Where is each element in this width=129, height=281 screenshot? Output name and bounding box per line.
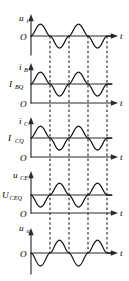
panel-iB-ylabel-sub: B [24, 66, 28, 73]
panel-iB-plot: i B I BQ O t [0, 58, 129, 110]
panel-uo-origin-label: O [20, 249, 27, 259]
panel-uo-plot: u o O t [0, 221, 129, 277]
panel-ui-ylabel-sub: i [27, 17, 29, 24]
panel-uCE-ylabel-main: u [13, 170, 18, 180]
panel-iC-plot: i C I CQ O t [0, 112, 129, 164]
panel-uCE-tlabel: t [120, 208, 123, 218]
panel-iB-origin-label: O [20, 99, 27, 109]
panel-uCE: u CE U CEQ O t [0, 166, 129, 220]
panel-uo-ylabel-main: u [19, 223, 24, 233]
panel-iC-ylabel-main: i [19, 116, 22, 126]
panel-ui-plot: u i O t [0, 8, 129, 56]
y-axis-arrow-icon [28, 63, 33, 70]
panel-iB: i B I BQ O t [0, 58, 129, 110]
panel-uCE-origin-label: O [20, 209, 27, 219]
panel-uo-ylabel-sub: o [27, 227, 30, 234]
panel-iB-qlabel-sub: BQ [15, 83, 24, 90]
panel-ui-tlabel: t [120, 31, 123, 41]
waveform-figure: u i O t i B I BQ O t [0, 0, 129, 281]
panel-ui-ylabel-main: u [19, 13, 24, 23]
panel-uo: u o O t [0, 221, 129, 277]
panel-iC-qlabel-main: I [7, 133, 12, 143]
x-axis-arrow-icon [111, 210, 118, 215]
panel-iC-ylabel-sub: C [24, 120, 29, 127]
panel-iC-tlabel: t [120, 152, 123, 162]
panel-ui-origin-label: O [20, 32, 27, 42]
y-axis-arrow-icon [28, 171, 33, 178]
panel-uCE-qlabel-sub: CEQ [10, 194, 23, 201]
panel-iB-qlabel-main: I [8, 79, 13, 89]
panel-uCE-ylabel-sub: CE [20, 174, 28, 181]
panel-iC-qlabel-sub: CQ [15, 137, 24, 144]
panel-iC: i C I CQ O t [0, 112, 129, 164]
panel-uo-tlabel: t [120, 248, 123, 258]
panel-iB-ylabel-main: i [19, 62, 22, 72]
panel-ui: u i O t [0, 8, 129, 56]
panel-iB-tlabel: t [120, 98, 123, 108]
panel-iC-origin-label: O [20, 153, 27, 163]
panel-uCE-plot: u CE U CEQ O t [0, 166, 129, 220]
y-axis-arrow-icon [28, 14, 33, 21]
y-axis-arrow-icon [28, 117, 33, 124]
x-axis-arrow-icon [111, 154, 118, 159]
x-axis-arrow-icon [111, 100, 118, 105]
